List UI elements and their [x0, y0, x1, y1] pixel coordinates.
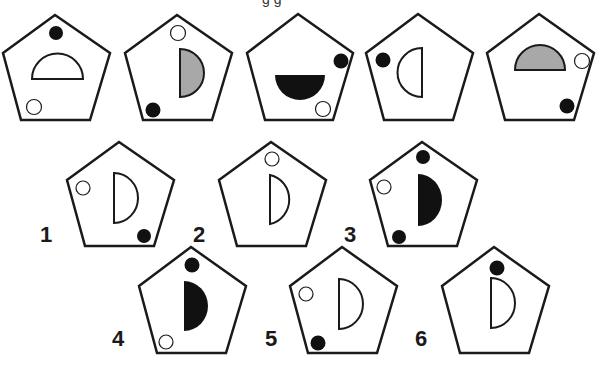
option-2[interactable] — [219, 142, 326, 246]
white-dot — [265, 152, 279, 166]
option-label-3: 3 — [344, 222, 356, 248]
black-dot — [137, 229, 151, 243]
option-label-5: 5 — [265, 326, 277, 352]
black-dot — [392, 230, 406, 244]
option-label-4: 4 — [112, 326, 124, 352]
white-dot — [76, 181, 90, 195]
white-dot — [316, 102, 331, 117]
black-dot — [334, 54, 349, 69]
black-dot — [185, 258, 200, 273]
white-dot — [159, 335, 173, 349]
black-dot — [311, 336, 326, 351]
white-dot — [575, 54, 590, 69]
black-dot — [146, 103, 161, 118]
option-label-1: 1 — [40, 222, 52, 248]
black-dot — [416, 150, 430, 164]
black-dot — [376, 53, 391, 68]
option-4[interactable] — [139, 247, 246, 353]
black-dot — [49, 26, 63, 40]
white-dot — [27, 100, 42, 115]
sequence-pentagon-2 — [125, 15, 232, 120]
sequence-pentagon-5 — [487, 14, 594, 120]
sequence-pentagon-1 — [3, 15, 110, 120]
option-6[interactable] — [442, 247, 549, 353]
puzzle-canvas: g g — [0, 0, 596, 366]
option-label-6: 6 — [415, 326, 427, 352]
option-1[interactable] — [67, 142, 174, 246]
sequence-pentagon-4 — [366, 14, 473, 120]
white-dot — [171, 26, 186, 41]
option-3[interactable] — [370, 142, 477, 246]
white-dot — [299, 287, 313, 301]
option-5[interactable] — [290, 247, 397, 353]
black-dot — [490, 261, 505, 276]
option-label-2: 2 — [193, 222, 205, 248]
black-dot — [560, 99, 575, 114]
white-dot — [377, 180, 391, 194]
sequence-pentagon-3 — [247, 14, 353, 120]
